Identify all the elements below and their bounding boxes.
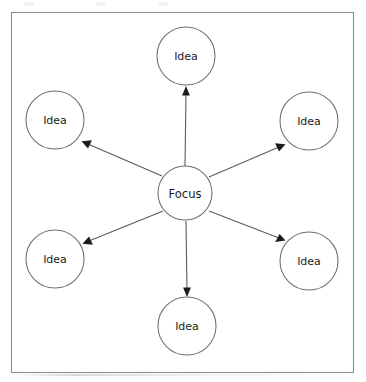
focus-label: Focus	[169, 187, 202, 201]
node-label: Idea	[43, 253, 67, 266]
node-idea-top-right[interactable]: Idea	[280, 92, 338, 150]
node-focus[interactable]: Focus	[158, 166, 212, 220]
node-idea-bottom-right[interactable]: Idea	[280, 232, 338, 290]
node-label: Idea	[175, 320, 199, 333]
page-edge-artifact	[159, 2, 168, 6]
node-idea-bottom-left[interactable]: Idea	[26, 230, 84, 288]
node-label: Idea	[297, 115, 321, 128]
node-idea-top[interactable]: Idea	[157, 27, 215, 85]
node-label: Idea	[43, 114, 67, 127]
node-label: Idea	[297, 255, 321, 268]
node-label: Idea	[174, 50, 198, 63]
page-edge-artifact	[24, 2, 34, 6]
mind-map-diagram: Idea Idea Idea Idea Idea Idea	[0, 0, 366, 382]
diagram-canvas: Idea Idea Idea Idea Idea Idea	[0, 0, 366, 382]
node-idea-top-left[interactable]: Idea	[26, 91, 84, 149]
node-idea-bottom[interactable]: Idea	[158, 297, 216, 355]
page-bottom-shadow	[11, 374, 354, 376]
page-edge-artifact	[96, 2, 105, 6]
